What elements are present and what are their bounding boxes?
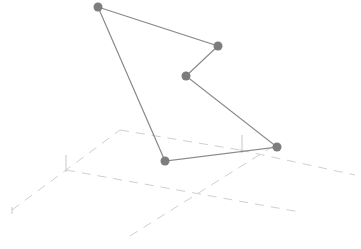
data-point-marker-1[interactable] [94, 3, 103, 12]
data-point-marker-2[interactable] [214, 42, 223, 51]
axis-guide-line-1 [120, 130, 240, 150]
axis-guide-line-4 [130, 145, 275, 236]
3d-line-plot[interactable] [0, 0, 361, 249]
axis-ticks [12, 135, 242, 214]
data-point-marker-5[interactable] [161, 157, 170, 166]
axis-guide-lines [12, 130, 355, 236]
trace-line [98, 7, 277, 161]
trace-path [98, 7, 277, 161]
data-point-marker-4[interactable] [273, 143, 282, 152]
data-point-marker-3[interactable] [182, 72, 191, 81]
axis-guide-line-2 [240, 150, 355, 175]
axis-guide-line-3 [66, 170, 300, 212]
